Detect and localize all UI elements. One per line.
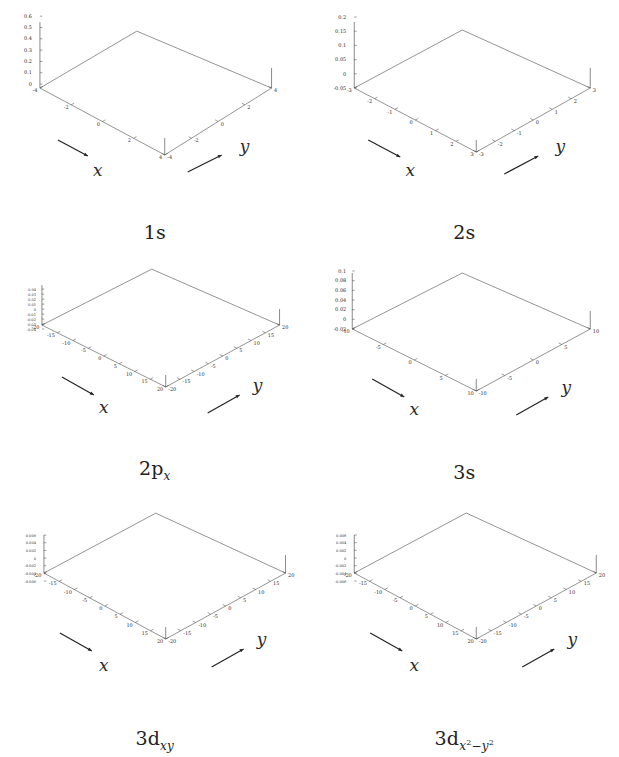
svg-text:0.4: 0.4 [24, 36, 32, 42]
caption-subscript: xy [160, 739, 174, 753]
svg-text:-15: -15 [183, 630, 191, 636]
svg-text:15: 15 [141, 378, 147, 384]
plot-2s: 0.20.150.10.050-0.05-3-2-10123-3-2-10123… [310, 0, 619, 247]
svg-text:-15: -15 [358, 580, 366, 586]
surface-plot-2px: 0.040.030.020.010-0.01-0.02-0.03-0.04-20… [0, 247, 310, 487]
svg-text:0: 0 [409, 605, 412, 611]
svg-text:x: x [93, 160, 103, 180]
svg-text:-5: -5 [507, 375, 512, 381]
svg-text:10: 10 [592, 328, 598, 334]
caption-main: 3d [435, 727, 460, 749]
svg-text:y: y [252, 375, 263, 395]
orbital-figure: 0.60.50.40.30.20.10-4-2024-4-2024xy 1s 0… [0, 0, 619, 757]
surface-plot-3s: 0.10.080.060.040.020-0.02-10-50510-10-50… [310, 247, 619, 487]
svg-text:0.1: 0.1 [24, 69, 32, 75]
svg-text:0: 0 [221, 121, 224, 127]
svg-text:-2: -2 [497, 141, 502, 147]
svg-text:-0.01: -0.01 [27, 313, 36, 317]
svg-text:-3: -3 [478, 151, 483, 157]
svg-text:y: y [560, 377, 571, 397]
svg-text:15: 15 [273, 581, 279, 587]
svg-text:10: 10 [126, 371, 132, 377]
svg-text:20: 20 [157, 638, 163, 644]
caption-subscript-x2y2: x2−y2 [459, 739, 494, 753]
svg-text:-5: -5 [375, 344, 380, 350]
svg-text:-0.05: -0.05 [333, 85, 346, 91]
caption-main: 1s [144, 221, 166, 243]
svg-text:-0.006: -0.006 [334, 580, 346, 584]
svg-text:-2: -2 [64, 104, 69, 110]
svg-text:0.03: 0.03 [28, 293, 37, 297]
svg-text:0.006: 0.006 [335, 534, 346, 538]
svg-text:-10: -10 [341, 328, 349, 334]
svg-text:-20: -20 [168, 638, 176, 644]
svg-text:-15: -15 [493, 630, 501, 636]
svg-text:-2: -2 [194, 137, 199, 143]
svg-text:-15: -15 [47, 332, 55, 338]
svg-text:0: 0 [538, 605, 541, 611]
plot-1s: 0.60.50.40.30.20.10-4-2024-4-2024xy [0, 0, 310, 247]
svg-text:0.006: 0.006 [26, 534, 37, 538]
svg-text:5: 5 [439, 375, 442, 381]
svg-text:-5: -5 [211, 363, 216, 369]
svg-text:5: 5 [114, 613, 117, 619]
svg-text:-20: -20 [31, 324, 39, 330]
plot-3dxy: 0.0060.0040.0020-0.002-0.004-0.006-20-15… [0, 487, 310, 757]
caption-1s: 1s [0, 221, 310, 243]
svg-text:-0.02: -0.02 [27, 318, 36, 322]
svg-text:20: 20 [282, 324, 288, 330]
svg-text:y: y [239, 136, 250, 156]
svg-text:-5: -5 [392, 597, 397, 603]
svg-text:5: 5 [564, 344, 567, 350]
svg-text:5: 5 [553, 597, 556, 603]
sub-exp-2b: 2 [489, 738, 494, 747]
svg-text:0: 0 [535, 359, 538, 365]
svg-text:15: 15 [268, 332, 274, 338]
svg-text:15: 15 [142, 630, 148, 636]
svg-text:0.2: 0.2 [338, 14, 346, 20]
svg-text:-0.002: -0.002 [24, 564, 35, 568]
svg-text:20: 20 [157, 386, 163, 392]
svg-text:0: 0 [97, 121, 100, 127]
svg-text:-10: -10 [374, 589, 382, 595]
svg-text:0: 0 [343, 557, 346, 561]
caption-2s: 2s [310, 221, 619, 243]
svg-text:5: 5 [424, 613, 427, 619]
svg-text:0.1: 0.1 [338, 268, 346, 274]
caption-subscript: x [164, 469, 171, 483]
svg-text:-1: -1 [516, 130, 521, 136]
panel-3s: 0.10.080.060.040.020-0.02-10-50510-10-50… [310, 247, 619, 487]
svg-text:-10: -10 [198, 622, 206, 628]
svg-text:x: x [99, 655, 109, 675]
svg-text:-15: -15 [49, 581, 57, 587]
svg-text:-5: -5 [213, 613, 218, 619]
svg-text:y: y [566, 629, 577, 649]
panel-2px: 0.040.030.020.010-0.01-0.02-0.03-0.04-20… [0, 247, 310, 487]
panel-2s: 0.20.150.10.050-0.05-3-2-10123-3-2-10123… [310, 0, 619, 247]
caption-main: 2s [453, 221, 475, 243]
svg-text:-2: -2 [367, 98, 372, 104]
svg-text:-4: -4 [33, 87, 38, 93]
svg-text:5: 5 [114, 363, 117, 369]
svg-text:-0.006: -0.006 [24, 580, 36, 584]
svg-text:y: y [554, 136, 565, 156]
svg-text:0: 0 [34, 557, 37, 561]
svg-text:0.06: 0.06 [335, 287, 346, 293]
surface-plot-3dx2y2: 0.0060.0040.0020-0.002-0.004-0.006-20-15… [310, 487, 619, 757]
svg-text:0.05: 0.05 [335, 56, 346, 62]
svg-text:0: 0 [408, 359, 411, 365]
svg-text:-5: -5 [82, 597, 87, 603]
panel-3dxy: 0.0060.0040.0020-0.002-0.004-0.006-20-15… [0, 487, 310, 757]
svg-text:0: 0 [228, 605, 231, 611]
caption-main: 3d [135, 727, 160, 749]
svg-text:-1: -1 [387, 109, 392, 115]
svg-text:-0.002: -0.002 [334, 564, 346, 568]
svg-text:10: 10 [467, 390, 473, 396]
svg-text:2: 2 [450, 141, 453, 147]
svg-text:20: 20 [598, 572, 604, 578]
svg-text:0.2: 0.2 [24, 58, 32, 64]
caption-main: 3s [453, 461, 475, 483]
svg-text:0.04: 0.04 [335, 297, 346, 303]
svg-text:2: 2 [128, 137, 131, 143]
svg-text:4: 4 [274, 87, 277, 93]
